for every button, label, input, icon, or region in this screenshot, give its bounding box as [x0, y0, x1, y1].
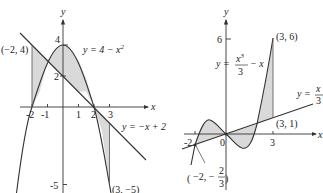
left-tick-label-3: 3: [108, 109, 113, 120]
right-line-label: y = x 3: [296, 83, 323, 106]
left-tick-label-y2: 2: [54, 71, 59, 82]
left-tick-label-1: 1: [76, 109, 81, 120]
right-x-axis-label: x: [317, 129, 323, 140]
right-tick-label-0: 0: [220, 137, 225, 148]
right-point-dot-origin: [224, 132, 227, 135]
svg-text:3: 3: [238, 66, 243, 77]
left-tick-label-y4: 4: [55, 34, 60, 45]
svg-text:3: 3: [316, 95, 321, 106]
left-point-label-neg2-4: (−2, 4): [1, 44, 28, 56]
svg-text:): ): [225, 173, 228, 185]
left-tick-label-neg1: -1: [41, 109, 49, 120]
right-tick-label-3: 3: [270, 137, 275, 148]
right-y-axis-label: y: [223, 6, 229, 17]
left-line-label: y = −x + 2: [121, 121, 166, 132]
svg-text:2: 2: [219, 165, 224, 176]
svg-text:y =: y =: [215, 58, 230, 69]
right-point-label-3-6: (3, 6): [276, 31, 298, 43]
left-point-label-3-neg5: (3, −5): [112, 184, 139, 193]
svg-text:y =: y =: [296, 88, 311, 99]
svg-text:x: x: [315, 83, 321, 94]
left-y-axis-label: y: [60, 6, 66, 17]
svg-text:3: 3: [219, 178, 224, 189]
right-tick-label-neg2: -2: [184, 137, 192, 148]
right-graph: y x -2 0 3 6 (3, 6) (3, 1) y = x3 3 − x …: [182, 6, 323, 190]
left-parabola-label: y = 4 − x2: [82, 43, 124, 55]
svg-text:x3: x3: [235, 52, 244, 64]
right-point-label-3-1: (3, 1): [276, 118, 298, 130]
left-tick-label-2: 2: [91, 109, 96, 120]
right-tick-label-y6: 6: [217, 34, 222, 45]
right-point-dot-neg2: [193, 143, 196, 146]
svg-text:− x: − x: [250, 58, 264, 69]
right-cubic-label: y = x3 3 − x: [215, 52, 264, 77]
right-shaded-region-2: [226, 124, 257, 148]
figure-canvas: y x -2 -1 1 2 3 4 2 -5 (−2, 4) (3, −5) y…: [0, 0, 323, 193]
left-tick-label-neg2: -2: [26, 109, 34, 120]
left-x-axis-label: x: [150, 101, 156, 112]
svg-text:−2, −: −2, −: [193, 171, 215, 182]
right-point-pointer: [196, 146, 205, 163]
right-point-label-neg2-neg2-3: ( −2, − 2 3 ): [187, 165, 228, 189]
left-graph: y x -2 -1 1 2 3 4 2 -5 (−2, 4) (3, −5) y…: [1, 6, 166, 193]
left-tick-label-y-neg5: -5: [50, 180, 58, 191]
left-shaded-region-1: [32, 45, 48, 107]
svg-text:(: (: [187, 173, 191, 185]
